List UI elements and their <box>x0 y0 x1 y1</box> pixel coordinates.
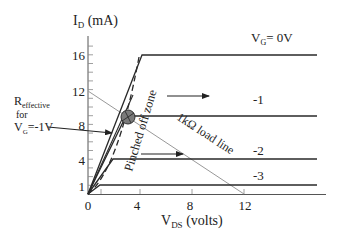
tick-label-x8: 8 <box>187 198 194 213</box>
r-effective-annotation: Reffective for VG=-1V <box>14 94 53 136</box>
svg-text:VG=-1V: VG=-1V <box>14 120 53 136</box>
x-tick-labels: 0 4 8 12 <box>85 198 252 213</box>
tick-label-16: 16 <box>72 48 86 63</box>
tick-label-4: 4 <box>79 153 86 168</box>
x-axis-title: VDS (volts) <box>161 213 223 230</box>
load-line-label: 1kΩ load line <box>174 110 237 157</box>
label-vg-minus1: -1 <box>253 92 264 107</box>
label-vg-minus3: -3 <box>253 168 264 183</box>
svg-text:Reffective: Reffective <box>14 94 50 110</box>
operating-point <box>121 110 135 124</box>
tick-label-x12: 12 <box>239 198 252 213</box>
tick-label-x0: 0 <box>85 198 92 213</box>
curve-vg-minus3 <box>88 185 317 194</box>
svg-text:for: for <box>16 109 28 120</box>
label-vg-minus2: -2 <box>253 143 264 158</box>
jfet-characteristics-diagram: ID (mA) VDS (volts) 16 12 8 4 1 0 4 8 12 <box>0 0 340 244</box>
tick-label-1: 1 <box>79 179 86 194</box>
pinched-off-zone-label: Pinched off zone <box>121 88 159 173</box>
y-axis-title: ID (mA) <box>73 13 118 30</box>
y-ticks <box>88 46 93 185</box>
tick-label-12: 12 <box>72 84 85 99</box>
x-ticks <box>101 189 244 194</box>
tick-label-x4: 4 <box>134 198 141 213</box>
label-vg-0: VG= 0V <box>251 30 293 47</box>
y-tick-labels: 16 12 8 4 1 <box>72 48 86 194</box>
